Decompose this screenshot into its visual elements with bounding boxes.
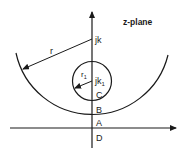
z-plane-diagram: z-plane jk jk1 r r1 C B A D bbox=[0, 0, 184, 155]
plane-label: z-plane bbox=[123, 17, 153, 27]
center-large-text: jk bbox=[94, 35, 102, 45]
point-a-label: A bbox=[96, 118, 102, 128]
radius-r1-arrow bbox=[75, 81, 92, 88]
center-small-label: jk1 bbox=[94, 76, 106, 87]
point-d-label: D bbox=[96, 133, 103, 143]
radius-r1-label: r1 bbox=[81, 70, 87, 80]
radius-r-label: r bbox=[50, 46, 53, 56]
point-b-label: B bbox=[96, 105, 102, 115]
center-large-label: jk bbox=[94, 35, 102, 45]
radius-r1-subscript: 1 bbox=[84, 74, 87, 80]
center-small-subscript: 1 bbox=[102, 81, 106, 87]
point-c-label: C bbox=[96, 90, 103, 100]
